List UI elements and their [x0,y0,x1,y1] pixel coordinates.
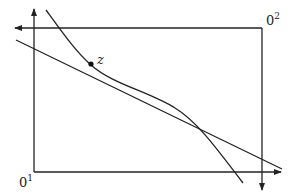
indifference-curve [46,10,243,183]
origin-1-base: 0 [19,175,27,190]
budget-line [16,40,282,169]
origin-2-base: 0 [266,13,274,28]
origin-2-sup: 2 [274,11,280,21]
point-z [88,61,93,66]
origin-2-label: 02 [266,11,280,28]
origin-1-label: 01 [19,173,33,190]
point-z-label: z [96,52,104,67]
edgeworth-box-diagram: z 02 01 [0,0,292,195]
origin-1-sup: 1 [27,173,33,183]
